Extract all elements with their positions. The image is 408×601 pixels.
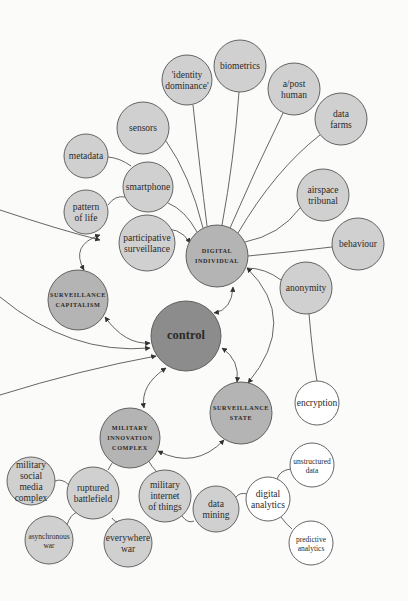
node-label: pattern bbox=[73, 202, 100, 212]
node-ruptured-battlefield: rupturedbattlefield bbox=[67, 467, 119, 519]
node-label: INDIVIDUAL bbox=[195, 257, 239, 264]
node-unstructured-data: unstructureddata bbox=[290, 443, 334, 487]
node-label: war bbox=[121, 544, 136, 554]
node-label: human bbox=[281, 90, 307, 100]
node-label: a/post bbox=[283, 79, 306, 89]
concept-map: 'identitydominance'biometricsa/posthuman… bbox=[0, 0, 408, 601]
node-data-mining: datamining bbox=[193, 486, 239, 532]
node-label: airspace bbox=[307, 185, 338, 195]
node-control: control bbox=[151, 301, 221, 371]
node-asynchronous-war: asynchronouswar bbox=[25, 516, 73, 564]
node-label: participative bbox=[123, 233, 170, 243]
node-label: SURVEILLANCE bbox=[213, 404, 269, 411]
node-label: sensors bbox=[129, 123, 157, 133]
node-label: media bbox=[19, 482, 43, 492]
node-label: military bbox=[16, 460, 46, 470]
node-circle bbox=[186, 225, 248, 287]
node-airspace-tribunal: airspacetribunal bbox=[297, 169, 349, 221]
node-metadata: metadata bbox=[64, 134, 108, 178]
node-label: surveillance bbox=[124, 244, 170, 254]
node-label: predictive bbox=[296, 535, 327, 544]
node-label: data bbox=[333, 109, 350, 119]
node-label: INNOVATION bbox=[107, 434, 153, 441]
node-label: behaviour bbox=[339, 239, 378, 249]
node-participative-surveillance: participativesurveillance bbox=[119, 215, 175, 271]
node-label: analytics bbox=[251, 500, 285, 510]
node-smartphone: smartphone bbox=[123, 162, 173, 212]
node-label: asynchronous bbox=[28, 532, 69, 541]
node-biometrics: biometrics bbox=[214, 40, 266, 92]
node-label: SURVEILLANCE bbox=[50, 291, 106, 298]
node-label: unstructured bbox=[293, 457, 331, 466]
node-label: metadata bbox=[69, 151, 104, 161]
node-label: DIGITAL bbox=[202, 247, 233, 254]
node-label: STATE bbox=[230, 414, 252, 421]
node-label: data bbox=[208, 499, 225, 509]
node-behaviour: behaviour bbox=[332, 218, 384, 270]
node-label: tribunal bbox=[308, 196, 338, 206]
node-label: encryption bbox=[297, 398, 338, 408]
node-label: digital bbox=[256, 489, 281, 499]
node-a-post-human: a/posthuman bbox=[268, 63, 320, 115]
node-label: anonymity bbox=[286, 283, 327, 293]
node-label: analytics bbox=[298, 544, 325, 553]
node-military-internet-of-things: militaryinternetof things bbox=[139, 470, 191, 522]
node-label: data bbox=[306, 466, 319, 475]
node-label: 'identity bbox=[172, 70, 203, 80]
node-circle bbox=[210, 382, 272, 444]
node-predictive-analytics: predictiveanalytics bbox=[289, 521, 333, 565]
node-data-farms: datafarms bbox=[315, 93, 367, 145]
node-label: COMPLEX bbox=[112, 444, 148, 451]
node-label: dominance' bbox=[165, 81, 209, 91]
node-surveillance-capitalism: SURVEILLANCECAPITALISM bbox=[48, 270, 108, 330]
node-label: of things bbox=[148, 502, 182, 512]
node-digital-individual: DIGITALINDIVIDUAL bbox=[186, 225, 248, 287]
node-label: ruptured bbox=[77, 483, 109, 493]
node-label: social bbox=[20, 471, 43, 481]
node-label: biometrics bbox=[220, 61, 260, 71]
node-anonymity: anonymity bbox=[280, 262, 332, 314]
node-identity-dominance: 'identitydominance' bbox=[162, 55, 212, 105]
node-label: farms bbox=[330, 120, 352, 130]
node-digital-analytics: digitalanalytics bbox=[246, 477, 290, 521]
node-pattern-of-life: patternof life bbox=[64, 190, 108, 234]
node-surveillance-state: SURVEILLANCESTATE bbox=[210, 382, 272, 444]
node-circle bbox=[48, 270, 108, 330]
node-label: mining bbox=[203, 510, 230, 520]
node-label: internet bbox=[150, 491, 179, 501]
node-label: CAPITALISM bbox=[55, 301, 100, 308]
node-military-social-media-complex: militarysocialmediacomplex bbox=[7, 457, 55, 505]
node-label: military bbox=[150, 480, 180, 490]
node-label: of life bbox=[75, 213, 98, 223]
node-encryption: encryption bbox=[295, 381, 339, 425]
node-label: everywhere bbox=[106, 533, 150, 543]
node-label: battlefield bbox=[74, 494, 113, 504]
node-military-innovation-complex: MILITARYINNOVATIONCOMPLEX bbox=[100, 408, 160, 468]
node-label: control bbox=[167, 328, 205, 342]
node-label: smartphone bbox=[126, 182, 170, 192]
node-sensors: sensors bbox=[117, 102, 169, 154]
node-everywhere-war: everywherewar bbox=[104, 519, 152, 567]
node-label: war bbox=[43, 541, 55, 550]
node-label: complex bbox=[15, 493, 48, 503]
node-label: MILITARY bbox=[112, 424, 148, 431]
